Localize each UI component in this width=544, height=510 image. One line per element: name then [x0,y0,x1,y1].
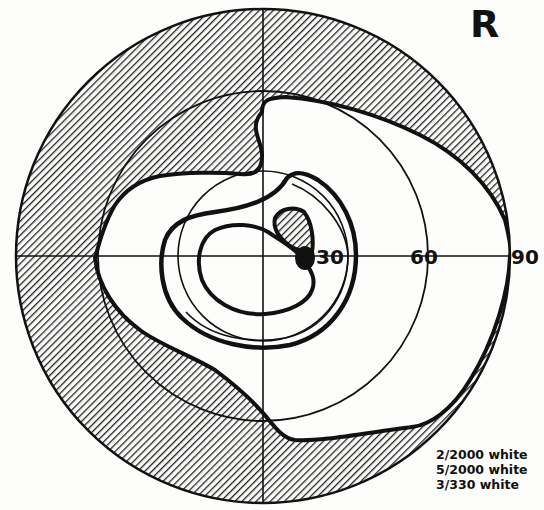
visual-field-chart: 30 60 90 [0,0,544,510]
tick-label-60: 60 [410,245,438,269]
tick-label-90: 90 [511,245,539,269]
legend-item-2-2000: 2/2000 white [436,447,528,462]
legend: 2/2000 white 5/2000 white 3/330 white [436,447,528,492]
eye-label: R [470,2,499,46]
blind-spot [295,246,315,270]
legend-item-5-2000: 5/2000 white [436,462,528,477]
tick-label-30: 30 [316,245,344,269]
legend-item-3-330: 3/330 white [436,477,528,492]
